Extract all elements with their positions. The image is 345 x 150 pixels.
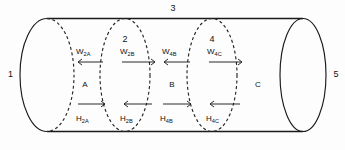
heat-label-h2a: H2A <box>76 114 89 124</box>
boundary-label-5: 5 <box>333 69 338 79</box>
heat-label-h2b: H2B <box>120 114 133 124</box>
boundary-label-1: 1 <box>8 69 13 79</box>
end-cap-left-solid-arc <box>20 19 47 132</box>
work-label-w2a: W2A <box>76 47 91 57</box>
work-arrow-w4c: W4C <box>207 47 242 65</box>
cylinder-diagram: 1 2 3 4 5 A B C W2A W2B W4B W4C <box>0 0 345 150</box>
work-label-w2b: W2B <box>120 47 135 57</box>
heat-label-h4b: H4B <box>160 114 173 124</box>
work-arrow-w2b: W2B <box>120 47 155 65</box>
figure-canvas: 1 2 3 4 5 A B C W2A W2B W4B W4C <box>0 0 345 150</box>
heat-arrow-h2b: H2B <box>120 101 152 124</box>
region-label-A: A <box>82 80 88 89</box>
work-label-w4c: W4C <box>207 47 222 57</box>
work-label-w4b: W4B <box>162 47 177 57</box>
boundary-ellipse-5 <box>280 19 326 132</box>
heat-label-h4c: H4C <box>206 114 219 124</box>
boundary-ellipse-1 <box>20 19 74 132</box>
boundary-label-3: 3 <box>170 3 175 13</box>
boundary-label-2: 2 <box>122 34 127 44</box>
heat-arrow-h2a: H2A <box>76 101 105 124</box>
region-label-B: B <box>169 80 174 89</box>
cylinder-walls <box>47 19 303 132</box>
heat-arrow-h4c: H4C <box>206 101 240 124</box>
region-label-C: C <box>255 80 261 89</box>
work-arrow-w2a: W2A <box>76 47 103 65</box>
end-cap-left-dashed-arc <box>47 19 74 132</box>
work-arrow-w4b: W4B <box>162 47 190 65</box>
boundary-label-4: 4 <box>209 34 214 44</box>
heat-arrow-h4b: H4B <box>160 101 191 124</box>
